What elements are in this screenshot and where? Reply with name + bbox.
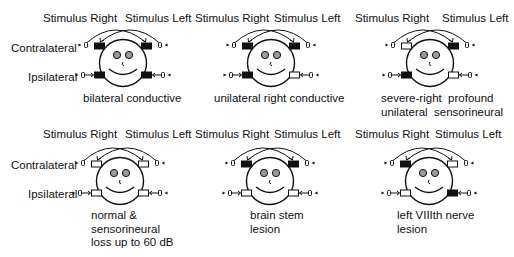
face-icon	[248, 40, 295, 87]
ipsi-arrow-right-icon	[392, 73, 401, 77]
contra-right-ear-box-empty	[402, 43, 412, 49]
stimulus-probe-right-icon	[386, 43, 395, 48]
panel-caption-line: unilateral sensorineural	[381, 106, 503, 118]
panel-caption-line: left VIIIth nerve	[397, 209, 474, 221]
panel-caption-line: normal &	[91, 209, 137, 221]
right-eye	[273, 51, 280, 58]
ipsi-arrow-left-icon	[460, 73, 469, 77]
left-eye	[260, 169, 267, 176]
ipsi-arrow-right-icon	[82, 191, 91, 195]
contra-right-ear-box-empty	[92, 161, 102, 167]
ipsi-arrow-left-icon	[301, 73, 310, 77]
stimulus-probe-left-icon	[465, 161, 474, 166]
right-eye	[431, 169, 438, 176]
panel-left-viiith-nerve-lesion: Stimulus RightStimulus Leftleft VIIIth n…	[355, 128, 502, 235]
left-eye	[261, 51, 268, 58]
stimulus-probe-right-icon	[76, 161, 85, 166]
ipsi-probe-right-icon	[383, 73, 392, 78]
arrowhead-icon	[100, 38, 104, 42]
panel-caption-line: lesion	[397, 223, 427, 235]
ipsi-arrow-left-icon	[153, 73, 162, 77]
stimulus-right-label: Stimulus Right	[195, 12, 270, 24]
panel-brain-stem-lesion: Stimulus RightStimulus Leftbrain stemles…	[195, 128, 341, 235]
arrowhead-icon	[449, 38, 453, 42]
panel-unilateral-right-conductive: Stimulus RightStimulus Leftunilateral ri…	[195, 12, 344, 104]
face-icon	[100, 40, 147, 87]
contralateral-row-label: Contralateral	[11, 42, 77, 54]
left-eye	[110, 169, 117, 176]
left-eye	[113, 51, 120, 58]
ipsi-left-ear-box-empty	[449, 72, 459, 78]
contra-right-ear-box-filled	[401, 161, 411, 167]
ipsi-right-ear-box-filled	[243, 72, 253, 78]
ipsilateral-row-label-2: Ipsilateral	[28, 188, 77, 200]
face-icon	[247, 158, 294, 205]
panel-caption-line: severe-right profound	[381, 92, 494, 104]
ipsi-probe-left-icon	[468, 191, 477, 196]
stimulus-probe-right-icon	[226, 161, 235, 166]
ipsi-probe-left-icon	[159, 191, 168, 196]
contra-left-ear-box-empty	[448, 161, 458, 167]
arrowhead-icon	[289, 156, 293, 160]
contra-right-ear-box-filled	[243, 43, 253, 49]
stimulus-left-label: Stimulus Left	[435, 128, 502, 140]
arrowhead-icon	[97, 156, 101, 160]
arrowhead-icon	[247, 156, 251, 160]
ipsi-arrow-right-icon	[391, 191, 400, 195]
right-eye	[272, 169, 279, 176]
stimulus-right-label: Stimulus Right	[43, 128, 118, 140]
stimulus-left-label: Stimulus Left	[125, 128, 192, 140]
stimulus-left-label: Stimulus Left	[442, 12, 509, 24]
stimulus-probe-right-icon	[227, 43, 236, 48]
panel-bilateral-conductive: Stimulus RightStimulus Leftbilateral con…	[43, 12, 192, 104]
ipsi-arrow-right-icon	[232, 191, 241, 195]
stimulus-right-label: Stimulus Right	[43, 12, 118, 24]
ipsi-left-ear-box-filled	[142, 72, 152, 78]
panel-caption-line: bilateral conductive	[83, 92, 181, 104]
arrowhead-icon	[142, 38, 146, 42]
left-eye	[419, 169, 426, 176]
face-icon	[97, 158, 144, 205]
ipsi-arrow-right-icon	[85, 73, 94, 77]
ipsi-left-ear-box-empty	[290, 72, 300, 78]
panel-caption-line: brain stem	[250, 209, 304, 221]
ipsi-left-ear-box-filled	[448, 190, 458, 196]
ipsi-right-ear-box-empty	[242, 190, 252, 196]
stimulus-left-label: Stimulus Left	[274, 12, 341, 24]
arrowhead-icon	[290, 38, 294, 42]
contra-left-ear-box-filled	[289, 161, 299, 167]
panel-caption-line: sensorineural	[91, 223, 160, 235]
arrowhead-icon	[248, 38, 252, 42]
stimulus-left-label: Stimulus Left	[125, 12, 192, 24]
face-icon	[406, 158, 453, 205]
stimulus-right-label: Stimulus Right	[195, 128, 270, 140]
ipsi-right-ear-box-filled	[402, 72, 412, 78]
arrowhead-icon	[407, 38, 411, 42]
ipsi-probe-left-icon	[309, 191, 318, 196]
ipsi-probe-right-icon	[224, 73, 233, 78]
ipsi-right-ear-box-filled	[95, 72, 105, 78]
ipsilateral-row-label: Ipsilateral	[28, 71, 77, 83]
stimulus-probe-right-icon	[385, 161, 394, 166]
contra-left-ear-box-empty	[139, 161, 149, 167]
acoustic-reflex-pattern-figure: Contralateral Ipsilateral Contralateral …	[0, 0, 514, 257]
stimulus-right-label: Stimulus Right	[355, 12, 430, 24]
ipsi-arrow-left-icon	[459, 191, 468, 195]
ipsi-arrow-right-icon	[233, 73, 242, 77]
contra-right-ear-box-filled	[242, 161, 252, 167]
ipsi-arrow-left-icon	[150, 191, 159, 195]
panel-caption-line: loss up to 60 dB	[91, 236, 174, 248]
arrowhead-icon	[448, 156, 452, 160]
stimulus-probe-left-icon	[159, 43, 168, 48]
face-icon	[407, 40, 454, 87]
figure-canvas: Contralateral Ipsilateral Contralateral …	[0, 0, 514, 257]
ipsi-right-ear-box-empty	[92, 190, 102, 196]
stimulus-left-label: Stimulus Left	[274, 128, 341, 140]
arrowhead-icon	[406, 156, 410, 160]
ipsi-probe-right-icon	[223, 191, 232, 196]
ipsi-left-ear-box-empty	[139, 190, 149, 196]
contralateral-row-label-2: Contralateral	[11, 159, 77, 171]
ipsi-probe-right-icon	[382, 191, 391, 196]
panel-severe-right-profound-unilateral-sensorineural: Stimulus RightStimulus Leftsevere-right …	[355, 12, 509, 118]
contra-left-ear-box-filled	[449, 43, 459, 49]
